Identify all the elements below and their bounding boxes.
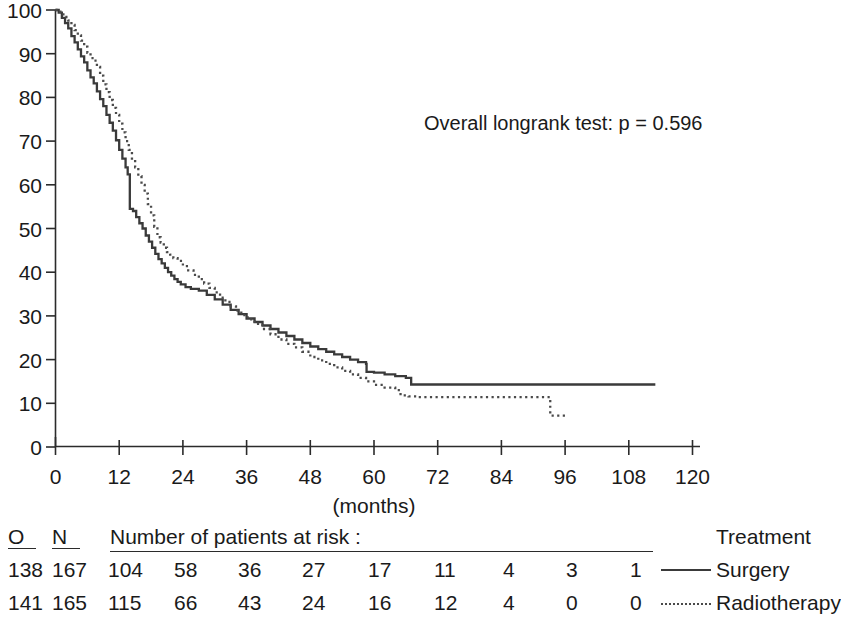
x-tick-label: 120 [675, 465, 710, 488]
x-tick-label: 0 [50, 465, 62, 488]
risk-count: 11 [434, 555, 456, 585]
risk-count: 104 [108, 555, 143, 585]
y-tick-label: 30 [19, 305, 42, 328]
x-tick-label: 108 [611, 465, 646, 488]
risk-count: 43 [238, 588, 261, 618]
risk-count: 24 [302, 588, 325, 618]
risk-count: 16 [368, 588, 391, 618]
x-tick-labels: 0 12 24 36 48 60 72 84 96 108 120 [50, 465, 710, 488]
logrank-annotation: Overall longrank test: p = 0.596 [424, 112, 703, 134]
x-tick-label: 12 [108, 465, 131, 488]
y-tick-label: 20 [19, 349, 42, 372]
legend-label-surgery: Surgery [716, 555, 790, 585]
y-tick-labels: 100 90 80 70 60 50 40 30 20 10 0 [7, 0, 42, 459]
risk-count: 115 [108, 588, 141, 618]
header-at-risk-title: Number of patients at risk : [110, 522, 361, 552]
header-treatment: Treatment [716, 522, 811, 552]
risk-table-row: 138 167 104 58 36 27 17 11 4 3 1 Surgery [0, 555, 825, 585]
y-tick-label: 0 [30, 436, 42, 459]
risk-count: 0 [630, 588, 642, 618]
risk-count: 3 [566, 555, 578, 585]
x-tick-label: 84 [490, 465, 514, 488]
underline-total [52, 548, 80, 549]
x-tick-label: 36 [235, 465, 258, 488]
y-tick-label: 50 [19, 218, 42, 241]
y-tick-label: 60 [19, 174, 42, 197]
row-total: 167 [52, 555, 98, 585]
risk-count: 58 [174, 555, 197, 585]
risk-count: 4 [503, 588, 515, 618]
y-tick-label: 100 [7, 0, 42, 22]
survival-curve-surgery [56, 10, 656, 385]
risk-count: 36 [238, 555, 261, 585]
row-observed: 141 [8, 588, 54, 618]
underline-observed [8, 548, 36, 549]
risk-count: 1 [630, 555, 642, 585]
x-axis-title: (months) [333, 494, 416, 517]
y-tick-label: 10 [19, 392, 42, 415]
y-tick-marks [46, 10, 56, 447]
row-total: 165 [52, 588, 98, 618]
risk-table: O N Number of patients at risk : Treatme… [0, 522, 825, 623]
risk-count: 0 [566, 588, 578, 618]
x-tick-label: 24 [171, 465, 195, 488]
x-tick-label: 72 [426, 465, 449, 488]
risk-count: 12 [434, 588, 457, 618]
legend-label-radiotherapy: Radiotherapy [716, 588, 841, 618]
survival-plot: 100 90 80 70 60 50 40 30 20 10 0 0 12 24… [0, 0, 825, 522]
risk-count: 17 [368, 555, 391, 585]
legend-swatch-radiotherapy [661, 603, 711, 605]
x-tick-label: 60 [362, 465, 385, 488]
risk-table-header-row: O N Number of patients at risk : Treatme… [0, 522, 825, 552]
risk-table-row: 141 165 115 66 43 24 16 12 4 0 0 Radioth… [0, 588, 825, 618]
y-tick-label: 80 [19, 86, 42, 109]
survival-curve-radiotherapy [56, 10, 566, 416]
risk-count: 4 [503, 555, 515, 585]
y-tick-label: 40 [19, 261, 42, 284]
x-tick-label: 96 [553, 465, 576, 488]
risk-count: 66 [174, 588, 197, 618]
underline-at-risk [110, 551, 653, 552]
y-tick-label: 90 [19, 43, 42, 66]
risk-count: 27 [302, 555, 325, 585]
row-observed: 138 [8, 555, 54, 585]
y-tick-label: 70 [19, 130, 42, 153]
x-tick-label: 48 [299, 465, 322, 488]
legend-swatch-surgery [661, 569, 711, 571]
